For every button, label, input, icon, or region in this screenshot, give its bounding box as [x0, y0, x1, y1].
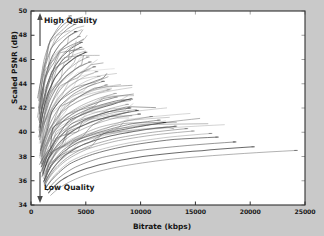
x-tick-label: 15000 [175, 209, 215, 215]
annotation-low-quality: Low Quality [44, 183, 95, 192]
x-tick-label: 10000 [121, 209, 161, 215]
x-tick-label: 20000 [230, 209, 270, 215]
y-tick-label: 38 [6, 154, 27, 160]
rate-distortion-plot [0, 0, 324, 236]
y-tick-label: 40 [6, 129, 27, 135]
x-axis-label: Bitrate (kbps) [0, 222, 324, 231]
x-tick-label: 0 [11, 209, 51, 215]
chart-figure: High Quality Low Quality 343638404244464… [0, 0, 324, 236]
x-tick-label: 5000 [66, 209, 106, 215]
annotation-high-quality: High Quality [44, 16, 97, 25]
x-tick-label: 25000 [285, 209, 324, 215]
y-tick-label: 36 [6, 178, 27, 184]
y-axis-label: Scaled PSNR (dB) [10, 8, 19, 128]
y-tick-label: 34 [6, 202, 27, 208]
